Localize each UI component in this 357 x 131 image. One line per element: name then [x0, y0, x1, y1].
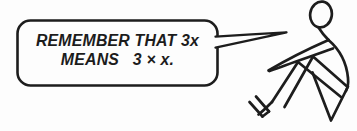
stick-figure-heel-mark-2: [256, 97, 269, 112]
stick-figure-heel-mark-1: [250, 102, 263, 117]
speech-bubble-line-2: MEANS 3 × x.: [61, 51, 174, 70]
stick-figure-neck: [319, 28, 329, 41]
stick-figure-foot: [263, 112, 270, 117]
stick-figure-head: [308, 0, 333, 29]
stick-figure-near-leg: [272, 62, 341, 102]
stick-figure: [250, 0, 349, 121]
stick-figure-arm-upper: [269, 40, 329, 71]
speech-bubble-line-1: REMEMBER THAT 3x: [36, 32, 199, 51]
cartoon-panel: REMEMBER THAT 3x MEANS 3 × x.: [0, 0, 357, 131]
speech-bubble-text: REMEMBER THAT 3x MEANS 3 × x.: [18, 20, 217, 86]
